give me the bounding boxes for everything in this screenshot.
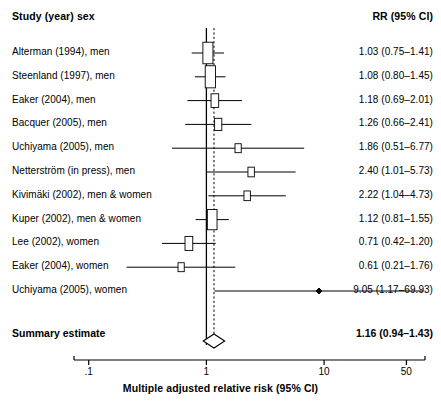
point-estimate-marker [178, 263, 184, 272]
estimate-value: 0.71 (0.42–1.20) [359, 236, 433, 247]
x-axis-tick-label: 10 [319, 366, 330, 377]
x-axis-tick-label: .1 [85, 366, 93, 377]
estimate-value: 1.03 (0.75–1.41) [359, 46, 433, 57]
study-label: Uchiyama (2005), men [12, 141, 114, 152]
point-estimate-marker [203, 42, 213, 64]
study-row [196, 209, 229, 229]
study-label: Kuper (2002), men & women [12, 213, 141, 224]
study-row [127, 263, 236, 272]
study-label: Bacquer (2005), men [12, 117, 107, 128]
estimate-value: 1.86 (0.51–6.77) [359, 141, 433, 152]
x-axis-title: Multiple adjusted relative risk (95% CI) [0, 382, 441, 394]
summary-estimate-value: 1.16 (0.94–1.43) [356, 327, 433, 339]
study-row [187, 94, 242, 108]
estimate-value: 9.05 (1.17–69.93) [353, 284, 433, 295]
study-label: Kivimäki (2002), men & women [12, 189, 152, 200]
point-estimate-marker [205, 66, 215, 88]
estimate-value: 1.26 (0.66–2.41) [359, 117, 433, 128]
study-label: Uchiyama (2005), women [12, 284, 127, 295]
point-estimate-marker [235, 144, 241, 153]
study-row [162, 236, 216, 250]
study-row [207, 167, 296, 177]
study-row [185, 118, 251, 130]
estimate-value: 0.61 (0.21–1.76) [359, 260, 433, 271]
point-estimate-marker [207, 209, 217, 229]
study-label: Netterström (in press), men [12, 165, 135, 176]
point-estimate-marker [185, 236, 193, 250]
estimate-value: 2.40 (1.01–5.73) [359, 165, 433, 176]
study-label: Alterman (1994), men [12, 46, 110, 57]
study-row [192, 42, 224, 64]
study-row [208, 191, 285, 201]
study-label: Eaker (2004), men [12, 94, 96, 105]
point-estimate-marker [215, 118, 222, 130]
study-row [195, 66, 225, 88]
study-label: Eaker (2004), women [12, 260, 109, 271]
estimate-value: 2.22 (1.04–4.73) [359, 189, 433, 200]
point-estimate-marker [244, 191, 250, 201]
forest-plot-canvas [0, 0, 441, 404]
summary-label: Summary estimate [12, 327, 105, 339]
estimate-value: 1.08 (0.80–1.45) [359, 70, 433, 81]
estimate-value: 1.12 (0.81–1.55) [359, 213, 433, 224]
x-axis-tick-label: 50 [401, 366, 412, 377]
forest-plot-figure: Study (year) sex RR (95% CI) Alterman (1… [0, 0, 441, 404]
x-axis-tick-label: 1 [204, 366, 210, 377]
point-estimate-marker [248, 167, 254, 177]
study-label: Lee (2002), women [12, 236, 99, 247]
study-row [172, 144, 304, 153]
point-estimate-marker [316, 288, 322, 294]
study-label: Steenland (1997), men [12, 70, 115, 81]
point-estimate-marker [211, 94, 219, 108]
estimate-value: 1.18 (0.69–2.01) [359, 94, 433, 105]
